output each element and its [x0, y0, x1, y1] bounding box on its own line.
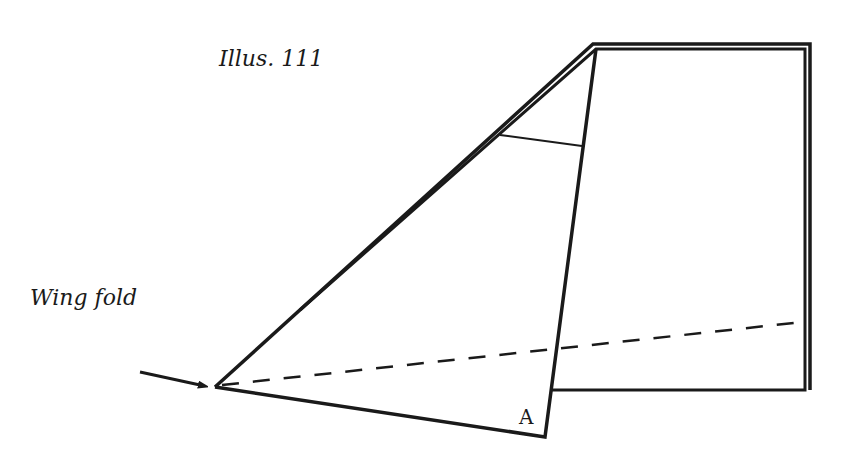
arrow-icon — [140, 372, 200, 385]
inner-edge-line — [300, 49, 805, 390]
point-a-label: A — [519, 405, 533, 429]
illustration-canvas: Illus. 111 Wing fold A — [0, 0, 854, 465]
wing-fold-label: Wing fold — [30, 285, 137, 310]
outer-edge-line — [215, 44, 810, 390]
flap-edge-line — [215, 49, 596, 437]
illustration-title: Illus. 111 — [219, 46, 323, 71]
paper-airplane-diagram — [0, 0, 854, 465]
cross-crease-line — [500, 135, 582, 146]
wing-fold-dashed-line — [222, 322, 803, 385]
